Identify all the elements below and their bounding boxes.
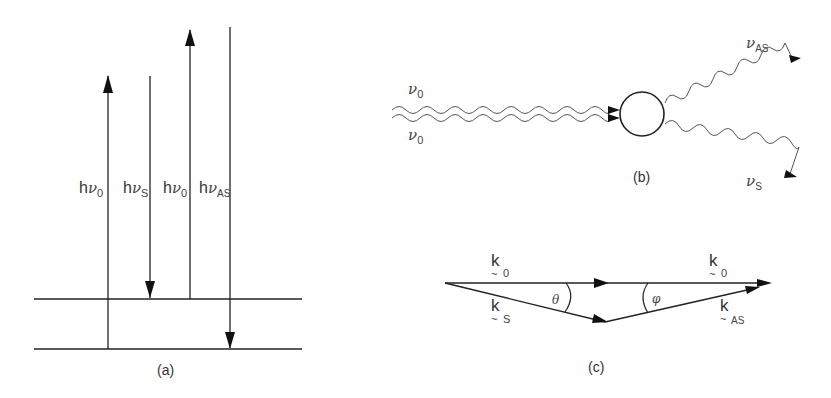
arrowhead-down-icon: [225, 332, 235, 349]
svg-text:~: ~: [491, 268, 497, 280]
caption-c: (c): [588, 359, 604, 375]
svg-text:~: ~: [491, 313, 497, 325]
svg-text:0: 0: [721, 267, 727, 279]
arrowhead-icon: [757, 279, 772, 287]
svg-text:S: S: [503, 313, 510, 325]
label-h-nu0-2: hν0: [163, 179, 187, 199]
panel-c-wavevector-diagram: θ φ k ~ 0 k ~ 0 k ~ S k ~ AS (c): [445, 251, 772, 375]
angle-arc-theta: [565, 283, 571, 312]
caption-b: (b): [633, 169, 650, 185]
outgoing-wave-anti-stokes: [665, 43, 793, 103]
outgoing-wave-stokes: [665, 120, 799, 174]
label-phi: φ: [652, 292, 661, 306]
label-k0-second: k ~ 0: [709, 251, 727, 280]
arrowhead-icon: [745, 286, 760, 294]
raman-scattering-figure: hν0 hνS hν0 hνAS (a) ν0 ν0: [0, 0, 831, 398]
svg-text:AS: AS: [731, 315, 745, 326]
arrowhead-icon: [608, 106, 620, 114]
label-kAS: k ~ AS: [720, 296, 745, 326]
label-k0-first: k ~ 0: [491, 251, 509, 280]
svg-text:0: 0: [503, 267, 509, 279]
label-h-nuAS: hνAS: [199, 179, 231, 199]
incoming-wave-lower: [392, 115, 612, 122]
label-nu-S: νS: [746, 172, 762, 192]
panel-b-scattering-diagram: ν0 ν0 νAS νS (b): [392, 34, 801, 192]
label-nu0-upper: ν0: [408, 80, 423, 100]
arrowhead-up-icon: [185, 29, 195, 46]
arrowhead-down-icon: [145, 281, 155, 298]
arrowhead-up-icon: [103, 75, 113, 93]
label-h-nu0-1: hν0: [79, 179, 103, 199]
angle-arc-phi: [643, 283, 648, 313]
molecule-circle: [620, 92, 664, 136]
caption-a: (a): [157, 362, 174, 378]
label-kS: k ~ S: [491, 296, 510, 325]
svg-text:~: ~: [720, 313, 726, 325]
incoming-wave-upper: [392, 107, 612, 114]
panel-a-energy-diagram: hν0 hνS hν0 hνAS (a): [34, 27, 302, 378]
svg-text:~: ~: [709, 268, 715, 280]
label-h-nuS: hνS: [123, 179, 148, 199]
arrowhead-icon: [789, 55, 801, 63]
arrowhead-icon: [608, 114, 620, 122]
label-nu-AS: νAS: [746, 34, 769, 54]
label-nu0-lower: ν0: [408, 126, 423, 146]
label-theta: θ: [552, 293, 560, 307]
vector-kS: [445, 283, 605, 322]
